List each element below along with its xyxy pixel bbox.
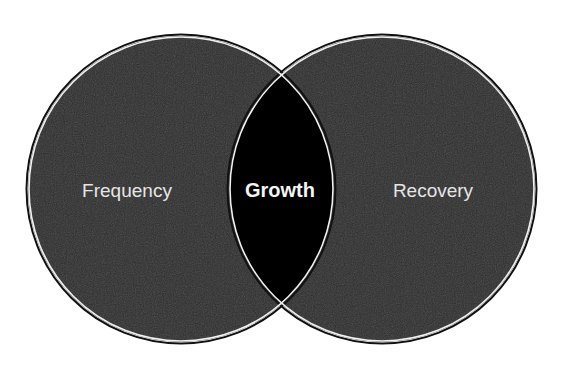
label-growth: Growth (245, 179, 315, 201)
label-recovery: Recovery (393, 180, 474, 201)
label-frequency: Frequency (82, 180, 172, 201)
venn-diagram: Frequency Growth Recovery (0, 0, 563, 366)
